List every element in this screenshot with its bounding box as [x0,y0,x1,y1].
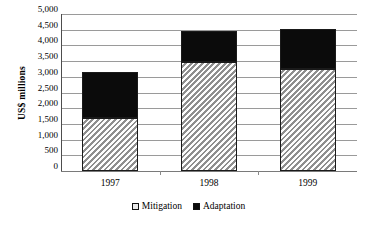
legend-entry-adaptation[interactable]: Adaptation [193,201,245,212]
stacked-bar-chart: US$ millions 05001,0001,5002,0002,5003,0… [0,0,377,228]
bar-group[interactable] [82,14,138,171]
y-axis-tick-label: 0 [16,161,58,171]
bar-group[interactable] [181,14,237,171]
x-axis-tick-labels: 199719981999 [61,177,357,191]
y-axis-tick-label: 2,500 [16,83,58,93]
bar-segment-adaptation[interactable] [181,31,237,61]
y-axis-tick-label: 4,000 [16,35,58,45]
bars-layer [61,14,357,171]
bar-segment-mitigation[interactable] [280,69,336,171]
x-axis-tick-label: 1999 [273,177,343,189]
y-axis-tick-label: 3,000 [16,67,58,77]
y-axis-tick-label: 1,000 [16,130,58,140]
y-axis-tick-label: 4,500 [16,20,58,30]
x-axis-tick [258,171,259,175]
x-axis-tick-marks [61,171,357,175]
x-axis-tick-label: 1998 [174,177,244,189]
legend-label: Mitigation [142,201,182,212]
chart-legend: MitigationAdaptation [0,201,377,212]
bar-segment-adaptation[interactable] [82,72,138,118]
legend-swatch-icon [193,203,200,210]
bar-segment-mitigation[interactable] [181,62,237,171]
legend-swatch-icon [132,203,139,210]
y-axis-tick-label: 500 [16,145,58,155]
legend-label: Adaptation [203,201,245,212]
x-axis-tick [160,171,161,175]
bar-segment-mitigation[interactable] [82,118,138,171]
y-axis-tick-label: 1,500 [16,114,58,124]
legend-entry-mitigation[interactable]: Mitigation [132,201,182,212]
plot-area [61,14,357,171]
y-axis-tick-label: 3,500 [16,51,58,61]
x-axis-tick-label: 1997 [75,177,145,189]
bar-segment-adaptation[interactable] [280,29,336,69]
y-axis-tick-labels: 05001,0001,5002,0002,5003,0003,5004,0004… [16,9,58,171]
y-axis-tick-label: 2,000 [16,98,58,108]
y-axis-tick-label: 5,000 [16,4,58,14]
bar-group[interactable] [280,14,336,171]
